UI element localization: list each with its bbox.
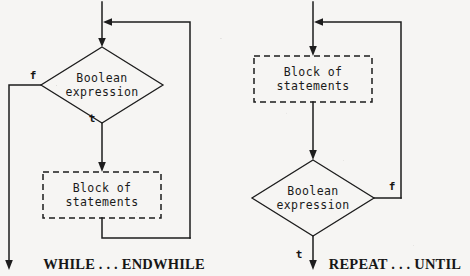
repeat-entry-arrowhead	[309, 46, 317, 56]
repeat-true-exit-arrowhead	[309, 260, 317, 270]
while-false-label: f	[30, 69, 37, 82]
while-block-to-loop-line	[102, 218, 190, 238]
repeat-caption: REPEAT . . . UNTIL	[329, 256, 462, 272]
while-true-label: t	[89, 112, 96, 125]
repeat-loopback-arrowhead	[314, 18, 323, 26]
repeat-decision-line2: expression	[276, 198, 349, 212]
while-entry-arrowhead	[98, 38, 106, 47]
while-false-exit-arrowhead	[5, 260, 13, 270]
while-caption: WHILE . . . ENDWHILE	[43, 256, 205, 272]
repeat-decision-line1: Boolean	[287, 184, 338, 198]
repeat-process-line2: statements	[276, 79, 349, 93]
repeat-false-label: f	[389, 180, 396, 193]
repeat-loopback-line	[321, 22, 401, 198]
while-endwhile-diagram: Boolean expression f t Block of statemen…	[0, 0, 470, 276]
repeat-block-to-decision-arrowhead	[309, 150, 317, 160]
while-false-exit-line	[9, 85, 41, 262]
figure-canvas: Boolean expression f t Block of statemen…	[0, 0, 470, 276]
repeat-process-line1: Block of	[284, 65, 343, 79]
while-process-line1: Block of	[73, 181, 132, 195]
while-true-arrowhead	[98, 162, 106, 172]
repeat-true-label: t	[296, 248, 303, 261]
while-process-line2: statements	[65, 195, 138, 209]
while-loopback-arrowhead	[103, 18, 112, 26]
while-decision-line1: Boolean	[76, 71, 127, 85]
while-decision-line2: expression	[65, 85, 138, 99]
